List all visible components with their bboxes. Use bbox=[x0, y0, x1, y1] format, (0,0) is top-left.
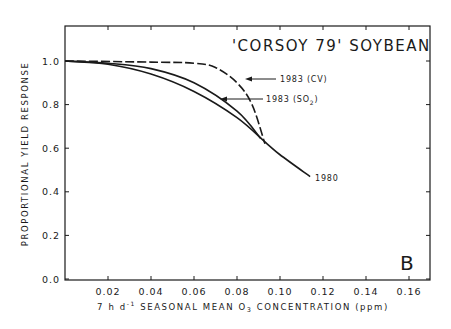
series-group bbox=[65, 61, 310, 177]
x-tick-label: 0.06 bbox=[181, 286, 206, 297]
panel-label: B bbox=[400, 251, 414, 275]
series-line-1983-cv bbox=[65, 61, 265, 144]
y-tick-label: 0.0 bbox=[42, 274, 60, 285]
series-line-1980 bbox=[65, 61, 310, 177]
chart-title: 'CORSOY 79' SOYBEAN bbox=[232, 37, 431, 55]
x-tick-label: 0.12 bbox=[310, 286, 335, 297]
x-tick-label: 0.16 bbox=[396, 286, 421, 297]
annotation-so2-main: 1983 (SO bbox=[266, 95, 310, 104]
annotation-so2-close: ) bbox=[314, 95, 318, 104]
y-tick-label: 1.0 bbox=[42, 56, 60, 67]
x-tick-label: 0.08 bbox=[224, 286, 249, 297]
x-axis-title-superscript: -1 bbox=[127, 300, 136, 307]
x-axis-title-suffix: CONCENTRATION (ppm) bbox=[252, 302, 388, 312]
x-tick-label: 0.02 bbox=[95, 286, 120, 297]
annotation-cv-text: 1983 (CV) bbox=[280, 75, 327, 84]
x-axis-title-mid: SEASONAL MEAN O bbox=[136, 302, 247, 312]
x-tick-label: 0.04 bbox=[138, 286, 163, 297]
x-axis-ticks: 0.020.040.060.080.100.120.140.16 bbox=[95, 276, 421, 297]
x-axis-title-prefix: 7 h d bbox=[97, 302, 127, 312]
yield-response-chart: 0.020.040.060.080.100.120.140.16 0.00.20… bbox=[0, 0, 451, 329]
x-axis-title: 7 h d-1 SEASONAL MEAN O3 CONCENTRATION (… bbox=[97, 300, 389, 314]
y-tick-label: 0.2 bbox=[42, 230, 60, 241]
x-tick-label: 0.10 bbox=[267, 286, 292, 297]
annotation-so2-text: 1983 (SO2) bbox=[266, 95, 318, 106]
annotation-cv: 1983 (CV) bbox=[245, 75, 327, 84]
y-tick-label: 0.8 bbox=[42, 99, 60, 110]
x-tick-label: 0.14 bbox=[353, 286, 378, 297]
y-tick-label: 0.6 bbox=[42, 143, 60, 154]
annotation-1980-text: 1980 bbox=[315, 174, 339, 183]
series-line-1983-so2 bbox=[65, 61, 261, 138]
arrow-head-icon bbox=[245, 77, 252, 82]
y-axis-title: PROPORTIONAL YIELD RESPONSE bbox=[20, 62, 30, 247]
annotation-so2: 1983 (SO2) bbox=[220, 95, 318, 106]
y-tick-label: 0.4 bbox=[42, 186, 60, 197]
